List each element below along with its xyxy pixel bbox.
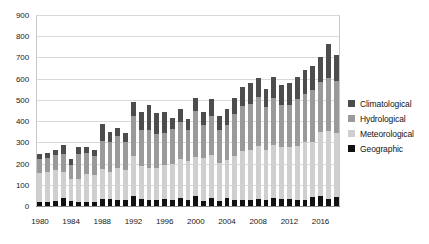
bar-2004[interactable]	[225, 109, 230, 206]
bar-1980[interactable]	[37, 154, 42, 206]
bar-segment-cli	[279, 85, 284, 105]
bar-1991[interactable]	[123, 133, 128, 206]
bar-segment-hyd	[334, 81, 339, 133]
bar-segment-met	[326, 131, 331, 199]
bar-1982[interactable]	[53, 150, 58, 206]
bar-2005[interactable]	[232, 98, 237, 206]
bar-segment-geo	[76, 202, 81, 206]
bar-2014[interactable]	[303, 70, 308, 206]
bar-segment-geo	[69, 201, 74, 206]
bar-2008[interactable]	[256, 78, 261, 206]
bar-segment-cli	[295, 77, 300, 99]
legend-label: Meteorological	[360, 129, 414, 139]
bar-2015[interactable]	[310, 66, 315, 206]
bar-segment-geo	[178, 198, 183, 206]
bar-segment-geo	[279, 199, 284, 206]
bar-2007[interactable]	[248, 83, 253, 206]
bar-segment-met	[123, 170, 128, 201]
bar-1993[interactable]	[139, 112, 144, 206]
x-tick-label-2012: 2012	[281, 217, 298, 226]
bar-1981[interactable]	[45, 153, 50, 206]
x-tick-label-1980: 1980	[31, 217, 48, 226]
bar-segment-cli	[147, 105, 152, 130]
bar-segment-met	[279, 147, 284, 199]
bar-2009[interactable]	[264, 89, 269, 206]
bar-segment-cli	[201, 112, 206, 126]
bar-2000[interactable]	[193, 98, 198, 206]
bar-segment-met	[209, 155, 214, 197]
legend-item-hyd[interactable]: Hydrological	[348, 111, 428, 126]
bar-segment-geo	[248, 200, 253, 206]
bar-segment-met	[334, 133, 339, 197]
bar-segment-geo	[100, 199, 105, 206]
bar-1992[interactable]	[131, 102, 136, 206]
bar-segment-hyd	[154, 134, 159, 168]
bar-segment-geo	[271, 198, 276, 206]
bar-2013[interactable]	[295, 77, 300, 206]
bar-1994[interactable]	[147, 105, 152, 206]
bar-2018[interactable]	[334, 55, 339, 206]
bar-2012[interactable]	[287, 83, 292, 206]
bar-segment-cli	[186, 119, 191, 130]
bar-2001[interactable]	[201, 112, 206, 206]
bar-segment-met	[147, 168, 152, 200]
y-tick-label-800: 800	[16, 32, 29, 41]
bar-segment-met	[310, 142, 315, 197]
bar-2003[interactable]	[217, 116, 222, 206]
bar-2006[interactable]	[240, 87, 245, 206]
bar-1985[interactable]	[76, 147, 81, 206]
bar-segment-geo	[84, 202, 89, 206]
bar-segment-geo	[154, 200, 159, 206]
bar-1996[interactable]	[162, 112, 167, 206]
legend-item-cli[interactable]: Climatological	[348, 96, 428, 111]
x-tick-label-1988: 1988	[94, 217, 111, 226]
bar-segment-hyd	[318, 82, 323, 132]
bar-1986[interactable]	[84, 147, 89, 206]
bar-segment-met	[295, 146, 300, 200]
bar-1988[interactable]	[100, 124, 105, 206]
legend-item-geo[interactable]: Geographic	[348, 141, 428, 156]
y-axis-labels: 0100200300400500600700800900	[0, 0, 34, 244]
bar-1997[interactable]	[170, 118, 175, 206]
y-tick-label-200: 200	[16, 159, 29, 168]
bar-segment-geo	[209, 198, 214, 206]
bar-1998[interactable]	[178, 109, 183, 206]
bar-segment-cli	[108, 132, 113, 142]
bar-segment-met	[84, 174, 89, 202]
bar-segment-cli	[76, 147, 81, 154]
bar-segment-geo	[256, 199, 261, 206]
bar-2011[interactable]	[279, 85, 284, 206]
bar-segment-cli	[334, 55, 339, 82]
bar-segment-geo	[225, 198, 230, 206]
bar-2010[interactable]	[271, 77, 276, 206]
bar-segment-hyd	[287, 105, 292, 146]
bar-1983[interactable]	[61, 145, 66, 206]
bar-1989[interactable]	[108, 132, 113, 206]
bar-segment-cli	[100, 124, 105, 141]
bar-2002[interactable]	[209, 99, 214, 206]
bar-segment-cli	[240, 87, 245, 106]
bar-segment-met	[201, 158, 206, 200]
bar-segment-met	[240, 151, 245, 200]
bar-segment-met	[264, 150, 269, 200]
bar-segment-hyd	[201, 125, 206, 158]
bar-segment-geo	[193, 196, 198, 206]
bar-2017[interactable]	[326, 44, 331, 206]
x-tick-label-2016: 2016	[312, 217, 329, 226]
bar-segment-geo	[264, 200, 269, 206]
bar-1999[interactable]	[186, 119, 191, 206]
bar-1984[interactable]	[69, 159, 74, 206]
bar-segment-cli	[115, 128, 120, 137]
bar-1987[interactable]	[92, 150, 97, 206]
bar-1995[interactable]	[154, 113, 159, 206]
chart-legend: ClimatologicalHydrologicalMeteorological…	[348, 96, 428, 156]
bar-segment-geo	[170, 200, 175, 206]
bar-segment-geo	[240, 200, 245, 206]
bar-1990[interactable]	[115, 128, 120, 207]
bar-segment-cli	[256, 78, 261, 97]
bar-2016[interactable]	[318, 57, 323, 206]
bar-segment-cli	[61, 145, 66, 154]
legend-item-met[interactable]: Meteorological	[348, 126, 428, 141]
bar-segment-geo	[303, 200, 308, 206]
bar-segment-met	[53, 170, 58, 201]
